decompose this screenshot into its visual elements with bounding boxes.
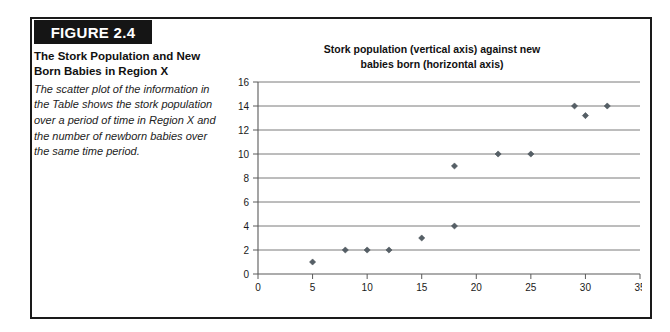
x-tick-label: 5 [310,282,316,293]
y-tick-label: 2 [243,245,249,256]
y-tick-label: 12 [238,125,250,136]
data-point-marker [582,113,588,119]
data-point-marker [309,259,315,265]
data-point-marker [451,223,457,229]
chart-title-line-2: babies born (horizontal axis) [361,58,504,70]
y-tick-label: 6 [243,197,249,208]
data-point-marker [342,247,348,253]
chart-title: Stork population (vertical axis) against… [222,42,642,71]
chart-title-line-1: Stork population (vertical axis) against… [324,43,540,55]
y-tick-label: 14 [238,101,250,112]
data-point-marker [604,103,610,109]
data-point-marker [386,247,392,253]
x-tick-label: 20 [471,282,483,293]
figure-number-badge: FIGURE 2.4 [34,20,152,44]
x-tick-label: 35 [634,282,642,293]
y-tick-label: 16 [238,77,250,88]
figure-number-label: FIGURE 2.4 [51,24,136,41]
y-tick-label: 10 [238,149,250,160]
gridlines-group [258,82,640,250]
x-tick-label: 15 [416,282,428,293]
scatter-chart: Stork population (vertical axis) against… [222,42,642,310]
x-tick-label: 30 [580,282,592,293]
plot-area: 0246810121416 05101520253035 [222,76,642,310]
data-point-marker [495,151,501,157]
y-tick-label: 0 [243,269,249,280]
data-point-marker [451,163,457,169]
data-point-marker [364,247,370,253]
data-point-marker [528,151,534,157]
figure-caption-body: The scatter plot of the information in t… [34,82,219,160]
x-tick-labels-group: 05101520253035 [255,282,642,293]
y-tick-label: 8 [243,173,249,184]
figure-caption-block: The Stork Population and New Born Babies… [34,49,219,160]
figure-caption-title: The Stork Population and New Born Babies… [34,49,219,79]
data-point-marker [419,235,425,241]
x-tick-marks-group [258,274,640,279]
y-tick-marks-group [253,82,258,274]
data-markers-group [309,103,610,265]
x-tick-label: 25 [525,282,537,293]
x-tick-label: 0 [255,282,261,293]
x-tick-label: 10 [362,282,374,293]
data-point-marker [571,103,577,109]
y-tick-label: 4 [243,221,249,232]
y-tick-labels-group: 0246810121416 [238,77,250,280]
